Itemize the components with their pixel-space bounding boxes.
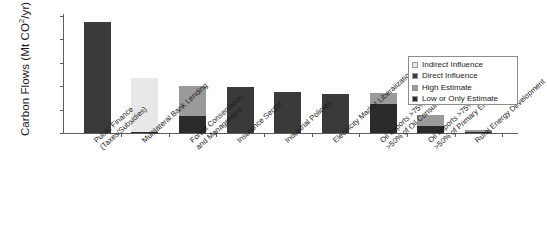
x-tick-mark xyxy=(502,134,503,137)
y-tick-mark xyxy=(60,110,63,111)
x-tick-mark xyxy=(169,134,170,137)
x-tick-mark xyxy=(264,134,265,137)
bar-segment xyxy=(84,22,111,133)
y-axis-title-tail: /yr) xyxy=(19,2,31,19)
legend-item-2: Direct Influence xyxy=(412,71,517,82)
legend-label: Direct Influence xyxy=(422,72,478,80)
x-tick-mark xyxy=(312,134,313,137)
legend-label: High Estimate xyxy=(422,84,472,92)
legend-item-1: Indirect Influence xyxy=(412,59,517,70)
legend-label: Low or Only Estimate xyxy=(422,95,498,103)
legend-swatch-icon xyxy=(412,96,418,102)
legend-swatch-icon xyxy=(412,73,418,79)
y-axis-title-superscript: 2 xyxy=(17,19,26,23)
y-tick-mark xyxy=(60,39,63,40)
y-tick-mark xyxy=(60,86,63,87)
legend-item-4: Low or Only Estimate xyxy=(412,94,517,105)
legend-swatch-icon xyxy=(412,62,418,68)
y-tick-mark xyxy=(60,16,63,17)
legend-label: Indirect Influence xyxy=(422,61,483,69)
legend-item-3: High Estimate xyxy=(412,82,517,93)
y-axis-title-main: Carbon Flows (Mt CO xyxy=(19,23,31,136)
y-tick-mark xyxy=(60,133,63,134)
bar-1 xyxy=(84,22,111,133)
y-axis-line xyxy=(63,14,64,134)
legend-swatch-icon xyxy=(412,85,418,91)
legend: Indirect InfluenceDirect InfluenceHigh E… xyxy=(408,56,518,105)
y-tick-mark xyxy=(60,63,63,64)
y-axis-title: Carbon Flows (Mt CO2/yr) xyxy=(17,1,31,137)
x-tick-mark xyxy=(359,134,360,137)
